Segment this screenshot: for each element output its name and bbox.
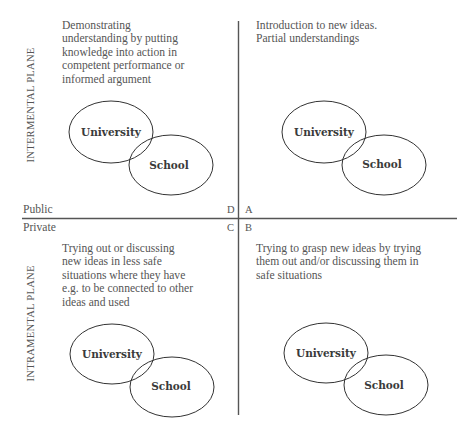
school-label: School xyxy=(149,159,189,171)
quadrant-diagram: University School University School Univ… xyxy=(0,0,470,434)
intermental-plane-label: INTERMENTAL PLANE xyxy=(25,51,36,163)
venn-quadrant-d: University School xyxy=(69,101,213,195)
venn-quadrant-b: University School xyxy=(284,323,428,415)
private-label: Private xyxy=(23,221,56,234)
university-label: University xyxy=(81,126,142,138)
school-label: School xyxy=(362,158,402,170)
venn-quadrant-a: University School xyxy=(282,101,426,195)
school-label: School xyxy=(364,379,404,391)
university-label: University xyxy=(294,126,355,138)
university-label: University xyxy=(82,348,143,360)
university-label: University xyxy=(296,347,357,359)
public-label: Public xyxy=(23,203,53,216)
venn-quadrant-c: University School xyxy=(70,324,214,417)
quadrant-letter-b: B xyxy=(245,222,252,233)
quadrant-letter-a: A xyxy=(245,204,253,215)
quadrant-d-description: Demonstrating understanding by putting k… xyxy=(62,19,184,86)
quadrant-letter-d: D xyxy=(227,204,235,215)
quadrant-c-description: Trying out or discussing new ideas in le… xyxy=(62,242,193,309)
quadrant-b-description: Trying to grasp new ideas by trying them… xyxy=(256,242,421,282)
intramental-plane-label: INTRAMENTAL PLANE xyxy=(25,266,36,382)
quadrant-a-description: Introduction to new ideas. Partial under… xyxy=(256,19,377,46)
school-label: School xyxy=(151,380,191,392)
quadrant-letter-c: C xyxy=(227,222,234,233)
